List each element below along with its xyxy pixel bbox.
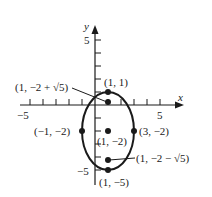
label-covertex-left: (−1, −2) [34, 125, 71, 138]
x-axis-label: x [177, 91, 183, 103]
label-focus-top: (1, −2 + √5) [15, 81, 69, 94]
leader-focus-bottom [109, 158, 135, 160]
points [79, 89, 137, 173]
point-focus-top [105, 99, 111, 105]
label-focus-bottom: (1, −2 − √5) [136, 152, 190, 165]
point-covertex-right [131, 128, 137, 134]
x-tick-label-neg5: −5 [17, 109, 29, 121]
y-axis-label: y [83, 20, 89, 32]
point-focus-bottom [105, 157, 111, 163]
point-covertex-left [79, 128, 85, 134]
leader-focus-top [72, 88, 107, 102]
ellipse-diagram: x y −5 5 5 −5 (1, 1) (1, −2 + √5) (1, −2… [0, 0, 212, 197]
label-covertex-right: (3, −2) [139, 125, 169, 138]
y-tick-label-neg5: −5 [77, 165, 89, 177]
point-vertex-top [105, 89, 111, 95]
x-tick-label-5: 5 [157, 109, 163, 121]
label-vertex-top: (1, 1) [104, 76, 128, 89]
y-axis-arrow-icon [92, 25, 99, 34]
label-vertex-bottom: (1, −5) [99, 176, 129, 189]
label-center: (1, −2) [97, 135, 127, 148]
y-tick-label-5: 5 [84, 34, 90, 46]
point-vertex-bottom [105, 167, 111, 173]
point-center [105, 128, 111, 134]
